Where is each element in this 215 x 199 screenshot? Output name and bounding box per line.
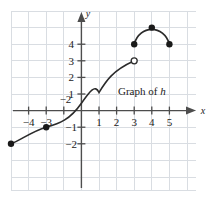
annotation-variable: h	[160, 85, 166, 97]
closed-point-left-end	[8, 141, 14, 147]
closed-point-arc-left	[131, 41, 137, 47]
y-tick-label-1: 1	[69, 88, 75, 100]
x-axis-label: x	[200, 105, 206, 116]
x-tick-label-3: 3	[131, 116, 137, 128]
x-tick-label-5: 5	[167, 116, 173, 128]
graph-of-h-annotation: Graph of h	[118, 85, 166, 97]
x-tick-label-1: 1	[96, 116, 102, 128]
y-tick-label-2: 2	[69, 71, 75, 83]
graph-figure: −4 −3 −2 1 2 3 4 5 4 3 2 1 −1 −2 x y Gra…	[0, 0, 215, 199]
open-point-discontinuity	[131, 58, 137, 64]
x-tick-label--4: −4	[23, 116, 35, 128]
figure-background	[0, 0, 215, 199]
y-tick-label-4: 4	[69, 38, 75, 50]
y-tick-label-3: 3	[69, 55, 75, 67]
closed-point-arc-peak	[149, 24, 155, 30]
annotation-text: Graph of	[118, 85, 158, 97]
x-tick-label-4: 4	[149, 116, 155, 128]
y-axis-label: y	[85, 8, 91, 19]
closed-point-arc-right	[166, 41, 172, 47]
y-tick-label--2: −2	[65, 138, 77, 150]
coordinate-plane: −4 −3 −2 1 2 3 4 5 4 3 2 1 −1 −2 x y Gra…	[0, 0, 215, 199]
x-tick-label-2: 2	[114, 116, 120, 128]
y-tick-label--1: −1	[65, 121, 77, 133]
closed-point-knot	[43, 124, 49, 130]
